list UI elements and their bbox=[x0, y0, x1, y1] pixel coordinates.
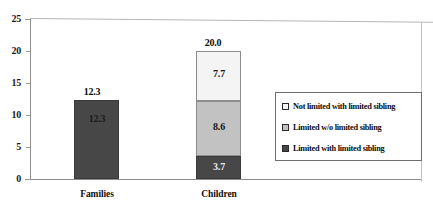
y-tick-10 bbox=[26, 115, 30, 116]
y-axis-tick-label: 15 bbox=[2, 77, 21, 88]
plot-top-border bbox=[30, 18, 433, 23]
x-axis-line bbox=[30, 179, 421, 180]
y-axis-tick-label: 5 bbox=[2, 141, 21, 152]
children-segment-top-value-label: 7.7 bbox=[184, 68, 254, 79]
y-tick-5 bbox=[26, 147, 30, 148]
y-tick-25 bbox=[25, 19, 30, 20]
legend-item-label: Not limited with limited sibling bbox=[293, 102, 395, 111]
legend-item-label: Limited w/o limited sibling bbox=[293, 123, 381, 132]
legend-item-limited-wo-limited-sibling[interactable]: Limited w/o limited sibling bbox=[282, 121, 381, 134]
legend-item-not-limited-with-limited-sibling[interactable]: Not limited with limited sibling bbox=[282, 100, 395, 113]
category-label-families: Families bbox=[61, 189, 133, 199]
y-axis-line bbox=[30, 19, 31, 179]
y-tick-20 bbox=[26, 51, 30, 52]
bar-chart: 25 20 15 10 5 0 12.3 12.3 Families 20.0 … bbox=[0, 0, 433, 215]
y-axis-tick-label: 20 bbox=[2, 45, 21, 56]
legend-swatch-icon bbox=[282, 103, 289, 110]
category-label-children: Children bbox=[183, 189, 255, 199]
y-axis-tick-label: 10 bbox=[2, 109, 21, 120]
children-segment-bottom-value-label: 3.7 bbox=[184, 161, 254, 172]
y-axis-tick-label: 0 bbox=[2, 173, 21, 184]
families-total-label: 12.3 bbox=[62, 86, 122, 97]
bar-families-limited-with-limited-sibling bbox=[74, 100, 119, 179]
y-tick-15 bbox=[26, 83, 30, 84]
legend-item-limited-with-limited-sibling[interactable]: Limited with limited sibling bbox=[282, 142, 384, 155]
children-total-label: 20.0 bbox=[183, 37, 243, 48]
chart-legend: Not limited with limited sibling Limited… bbox=[275, 92, 422, 161]
y-axis-tick-label: 25 bbox=[2, 13, 21, 24]
families-segment-value-label: 12.3 bbox=[62, 113, 132, 124]
y-tick-0 bbox=[25, 179, 30, 180]
children-segment-middle-value-label: 8.6 bbox=[184, 121, 254, 132]
legend-swatch-icon bbox=[282, 145, 289, 152]
legend-swatch-icon bbox=[282, 124, 289, 131]
legend-item-label: Limited with limited sibling bbox=[293, 144, 384, 153]
